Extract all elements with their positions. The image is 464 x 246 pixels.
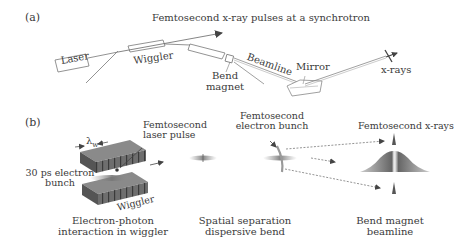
separation-caption-line1: Spatial separation <box>195 216 295 227</box>
upper-xray-spike <box>392 133 396 145</box>
mirror-label: Mirror <box>296 62 330 73</box>
lambda-subscript: w <box>92 141 98 149</box>
bend-magnet-label-line2: magnet <box>205 82 245 93</box>
beamline-caption-line1: Bend magnet <box>350 216 430 227</box>
bend-magnet-label: Bend magnet <box>205 71 245 92</box>
laser-pulse-label: Femtosecond laser pulse <box>143 120 207 140</box>
beamline-caption-line2: beamline <box>350 227 430 238</box>
lambda-left-arrow <box>75 146 84 147</box>
separation-stage-caption: Spatial separation dispersive bend <box>195 216 295 237</box>
electron-bunch-label: 30 ps electron bunch <box>22 168 98 188</box>
lambda-right-arrow <box>98 142 108 144</box>
bunch-pointer <box>270 141 276 147</box>
wiggler-caption-line1: Electron-photon <box>58 216 168 227</box>
bend-magnet-label-line1: Bend <box>205 71 245 82</box>
separation-caption-line2: dispersive bend <box>195 227 295 238</box>
electron-bunch-line2: bunch <box>22 178 98 188</box>
laser-pulse-dot <box>115 168 119 172</box>
lambda-w-label: λw <box>86 136 98 149</box>
beamline-stage-caption: Bend magnet beamline <box>350 216 430 237</box>
panel-a-title: Femtosecond x-ray pulses at a synchrotro… <box>152 13 370 24</box>
middle-dashed-arrow <box>311 158 335 162</box>
fs-bunch-line2: electron bunch <box>232 121 312 131</box>
panel-a-label: (a) <box>25 12 40 24</box>
bend-magnet-cube <box>225 54 234 63</box>
wiggler-caption-line2: interaction in wiggler <box>58 227 168 238</box>
chamber-box <box>188 44 225 59</box>
fs-xrays-label: Femtosecond x-rays <box>358 121 454 131</box>
wiggler-stage-caption: Electron-photon interaction in wiggler <box>58 216 168 237</box>
lower-xray-spike <box>392 182 396 194</box>
spectrum-mound <box>360 151 430 172</box>
laser-pulse-line2: laser pulse <box>143 130 207 140</box>
xrays-label: x-rays <box>381 65 411 76</box>
fs-electron-bunch-label: Femtosecond electron bunch <box>232 111 312 131</box>
panel-b-label: (b) <box>25 117 41 129</box>
electron-beam-line <box>86 51 118 83</box>
upper-dashed-arrow <box>286 141 384 149</box>
exit-arrow <box>150 162 163 165</box>
panel-b-graphics <box>75 133 430 205</box>
